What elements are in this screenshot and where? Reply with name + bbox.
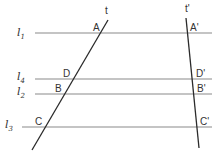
label-l4: l4 bbox=[17, 70, 25, 85]
transversal-t bbox=[32, 20, 108, 150]
diagram-canvas: l1 l4 l2 l3 t t' A D B C A' D' B' C' bbox=[0, 0, 219, 153]
label-l3: l3 bbox=[5, 118, 14, 133]
point-D: D bbox=[63, 68, 70, 79]
transversals: t t' bbox=[32, 3, 199, 150]
point-C: C bbox=[35, 116, 42, 127]
label-t: t bbox=[105, 5, 108, 16]
label-l2: l2 bbox=[17, 85, 26, 100]
point-C-prime: C' bbox=[200, 116, 209, 127]
parallel-lines bbox=[22, 33, 212, 127]
label-t-prime: t' bbox=[185, 3, 190, 14]
point-B-prime: B' bbox=[197, 83, 206, 94]
label-l1: l1 bbox=[17, 26, 25, 41]
point-A-prime: A' bbox=[190, 22, 199, 33]
point-D-prime: D' bbox=[196, 68, 205, 79]
point-A: A bbox=[93, 22, 100, 33]
point-labels: A D B C A' D' B' C' bbox=[35, 22, 209, 127]
line-labels: l1 l4 l2 l3 bbox=[5, 26, 26, 133]
point-B: B bbox=[55, 83, 62, 94]
